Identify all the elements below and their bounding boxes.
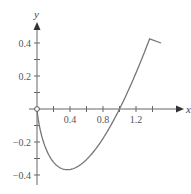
- x-axis-label: x: [185, 103, 191, 115]
- y-axis-label: y: [33, 8, 39, 20]
- x-axis-arrow-icon: [176, 106, 184, 113]
- x-tick-label: 1.2: [130, 114, 143, 125]
- x-tick-label: 0.8: [97, 114, 110, 125]
- y-tick-label: −0.4: [13, 170, 31, 181]
- y-tick-label: 0.4: [19, 38, 32, 49]
- open-point-at-origin: [35, 107, 40, 112]
- chart: x y 0.40.81.20.40.2−0.2−0.4: [0, 0, 191, 194]
- y-tick-label: 0.2: [19, 71, 32, 82]
- y-axis-arrow-icon: [34, 22, 41, 30]
- y-tick-label: −0.2: [13, 137, 31, 148]
- function-curve: [37, 39, 161, 170]
- x-tick-label: 0.4: [64, 114, 77, 125]
